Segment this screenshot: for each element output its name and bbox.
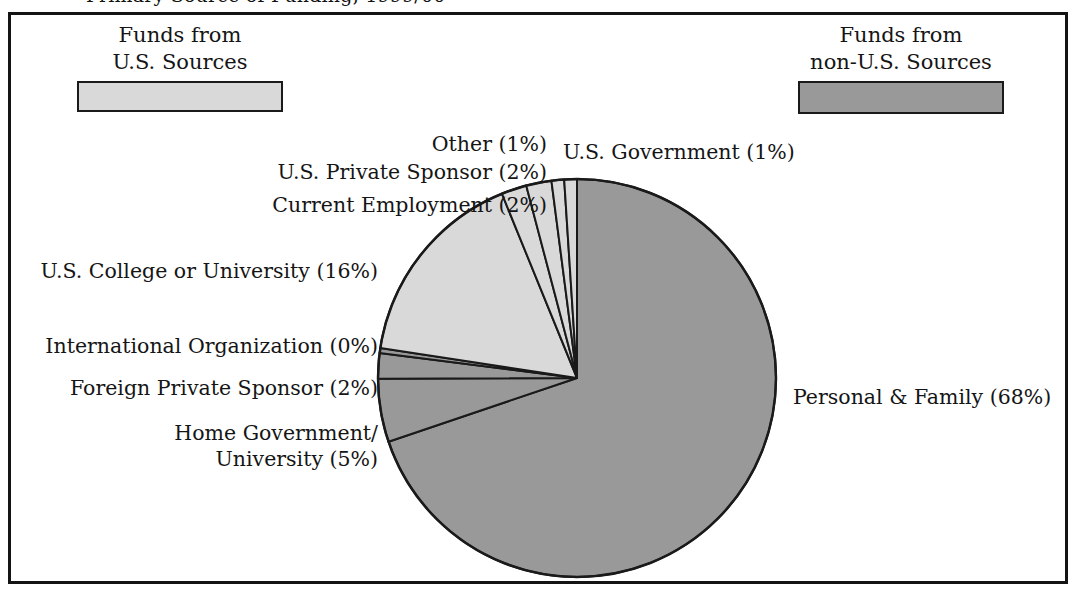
label-home-government-university: Home Government/ University (5%) [60, 420, 378, 472]
label-current-employment: Current Employment (2%) [120, 192, 547, 218]
label-us-government: U.S. Government (1%) [563, 139, 795, 165]
label-foreign-private-sponsor: Foreign Private Sponsor (2%) [30, 375, 378, 401]
label-home-government-line1: Home Government/ [60, 420, 378, 446]
label-other: Other (1%) [310, 131, 547, 157]
legend-non-us-line1: Funds from [793, 22, 1009, 49]
legend-us-sources: Funds from U.S. Sources [72, 22, 288, 112]
non-us-sources-swatch [798, 81, 1004, 114]
legend-non-us-line2: non-U.S. Sources [793, 49, 1009, 76]
label-personal-family: Personal & Family (68%) [793, 384, 1051, 410]
legend-us-line2: U.S. Sources [72, 49, 288, 76]
label-international-organization: International Organization (0%) [14, 333, 378, 359]
legend-us-line1: Funds from [72, 22, 288, 49]
label-us-college-or-university: U.S. College or University (16%) [18, 258, 378, 284]
chart-page: Primary Source of Funding, 1999/00 Perso… [0, 0, 1079, 592]
chart-title-text: Primary Source of Funding, 1999/00 [86, 0, 445, 6]
legend-non-us-sources: Funds from non-U.S. Sources [793, 22, 1009, 114]
chart-title-cropped: Primary Source of Funding, 1999/00 [0, 0, 1079, 10]
label-home-government-line2: University (5%) [60, 446, 378, 472]
label-us-private-sponsor: U.S. Private Sponsor (2%) [180, 159, 547, 185]
us-sources-swatch [77, 81, 283, 112]
